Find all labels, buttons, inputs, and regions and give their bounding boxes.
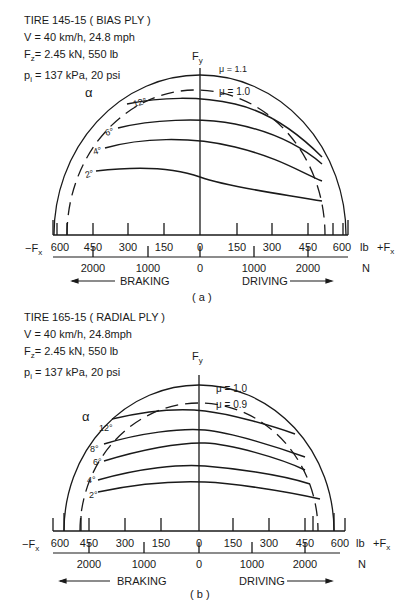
label-12deg-b: 12° <box>99 423 113 433</box>
svg-text:2000: 2000 <box>296 262 320 274</box>
curve-4deg-a <box>105 140 322 181</box>
neg-fx-label-b: −Fx <box>22 538 39 553</box>
svg-text:1000: 1000 <box>240 558 264 570</box>
label-8deg-b: 8° <box>90 444 99 454</box>
n-tick-labels-b: 20001000010002000 <box>77 558 317 570</box>
svg-text:0: 0 <box>196 558 202 570</box>
mu-1.0-label: μ = 1.0 <box>219 86 250 97</box>
caption-b: ( b ) <box>190 588 210 600</box>
neg-fx-label-a: −Fx <box>25 242 42 257</box>
braking-label-a: BRAKING <box>120 275 170 287</box>
curve-12deg-a <box>127 98 322 157</box>
fy-label-a: Fy <box>192 50 203 65</box>
driving-label-a: DRIVING <box>242 275 288 287</box>
svg-text:0: 0 <box>197 241 203 253</box>
alpha-symbol-a: α <box>85 85 93 100</box>
pos-fx-label-b: +Fx <box>373 537 390 552</box>
braking-label-b: BRAKING <box>117 575 167 587</box>
friction-ellipse-plot-a: Fy μ = 1.1 μ = 1.0 α 12° 6° 4° 2° −Fx 60… <box>0 0 411 300</box>
pos-fx-label-a: +Fx <box>377 241 394 256</box>
n-tick-labels-a: 20001000010002000 <box>81 262 320 274</box>
label-2deg-b: 2° <box>89 490 98 500</box>
svg-text:300: 300 <box>119 241 137 253</box>
svg-text:450: 450 <box>84 241 102 253</box>
svg-text:150: 150 <box>224 537 242 549</box>
chart-panel-b: TIRE 165-15 ( RADIAL PLY ) V = 40 km/h, … <box>0 300 411 601</box>
lb-unit-b: lb <box>356 537 365 549</box>
svg-text:1000: 1000 <box>136 262 160 274</box>
driving-label-b: DRIVING <box>239 575 285 587</box>
svg-text:2000: 2000 <box>77 558 101 570</box>
alpha-symbol-b: α <box>82 409 90 424</box>
curve-6deg-a <box>118 120 322 164</box>
n-unit-a: N <box>362 262 370 274</box>
svg-text:300: 300 <box>263 241 281 253</box>
mu-0.9-label-b: μ = 0.9 <box>216 399 247 410</box>
lb-tick-labels-b: 600450300150 0150300450600 <box>51 537 349 549</box>
label-4deg-a: 4° <box>92 145 103 157</box>
svg-text:450: 450 <box>296 537 314 549</box>
svg-text:300: 300 <box>260 537 278 549</box>
friction-ellipse-plot-b: Fy μ = 1.0 μ = 0.9 α 12° 8° 6° 4° 2° −Fx… <box>0 300 411 601</box>
svg-text:300: 300 <box>116 537 134 549</box>
label-2deg-a: 2° <box>84 168 95 180</box>
label-12deg-a: 12° <box>132 96 148 109</box>
svg-text:600: 600 <box>51 537 69 549</box>
svg-text:2000: 2000 <box>293 558 317 570</box>
mu-1.1-label: μ = 1.1 <box>219 64 247 74</box>
svg-text:450: 450 <box>299 241 317 253</box>
svg-text:600: 600 <box>51 241 69 253</box>
lb-tick-labels-a: 600450300150 0150300450600 <box>51 241 351 253</box>
label-6deg-b: 6° <box>93 457 102 467</box>
label-6deg-a: 6° <box>104 126 115 138</box>
label-4deg-b: 4° <box>87 475 96 485</box>
svg-text:2000: 2000 <box>81 262 105 274</box>
mu-1.0-label-b: μ = 1.0 <box>216 383 247 394</box>
svg-text:450: 450 <box>80 537 98 549</box>
lb-unit-a: lb <box>360 241 369 253</box>
svg-text:600: 600 <box>331 537 349 549</box>
curve-2deg-a <box>96 168 322 201</box>
curve-2deg-b <box>98 482 320 499</box>
svg-text:0: 0 <box>196 537 202 549</box>
svg-text:150: 150 <box>152 537 170 549</box>
svg-text:1000: 1000 <box>132 558 156 570</box>
svg-text:0: 0 <box>197 262 203 274</box>
svg-text:600: 600 <box>333 241 351 253</box>
friction-circle-mu-1.0 <box>67 90 325 235</box>
svg-text:150: 150 <box>155 241 173 253</box>
fy-label-b: Fy <box>192 350 203 365</box>
svg-text:1000: 1000 <box>242 262 266 274</box>
n-unit-b: N <box>358 558 366 570</box>
svg-text:150: 150 <box>228 241 246 253</box>
chart-panel-a: TIRE 145-15 ( BIAS PLY ) V = 40 km/h, 24… <box>0 0 411 300</box>
